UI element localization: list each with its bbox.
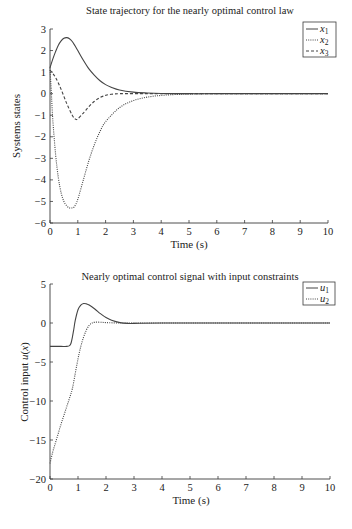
x-tick-label: 6 (214, 226, 219, 237)
y-tick-label: −20 (30, 474, 46, 485)
y-tick-label: −1 (35, 110, 46, 121)
axes: 0123456789103210−1−2−3−4−5−6 (35, 24, 333, 238)
y-tick-label: −4 (35, 174, 47, 185)
y-axis-label: Systems states (10, 94, 22, 158)
series-x2 (50, 68, 328, 208)
x-tick-label: 2 (103, 482, 108, 493)
series-x1 (50, 38, 328, 94)
y-axis-label: Control input u(x) (18, 342, 31, 422)
plot-lines (50, 38, 328, 208)
x-tick-label: 7 (243, 482, 248, 493)
x-tick-label: 4 (159, 226, 165, 237)
x-tick-label: 5 (187, 482, 192, 493)
x-tick-label: 0 (47, 482, 52, 493)
x-tick-label: 9 (299, 482, 304, 493)
legend: x1 x2 x3 (303, 22, 336, 58)
x-tick-label: 3 (131, 226, 136, 237)
y-tick-label: 2 (41, 45, 46, 56)
x-tick-label: 1 (75, 482, 80, 493)
y-tick-label: −5 (35, 196, 46, 207)
y-tick-label: −2 (35, 131, 46, 142)
x-tick-label: 6 (215, 482, 220, 493)
control-signal-chart: Nearly optimal control signal with input… (18, 271, 335, 507)
plot-lines (50, 303, 330, 463)
x-tick-label: 8 (271, 482, 276, 493)
x-tick-label: 2 (103, 226, 108, 237)
x-axis-label: Time (s) (170, 238, 208, 251)
y-tick-label: 0 (41, 318, 46, 329)
series-u1 (50, 303, 330, 346)
chart-title: Nearly optimal control signal with input… (82, 271, 299, 282)
x-tick-label: 1 (75, 226, 80, 237)
axes: 01234567891050−5−10−15−20 (30, 279, 336, 494)
y-tick-label: 3 (41, 24, 46, 35)
y-tick-label: 5 (41, 279, 46, 290)
y-tick-label: 1 (41, 67, 46, 78)
y-tick-label: 0 (41, 88, 46, 99)
x-tick-label: 10 (323, 226, 334, 237)
x-tick-label: 9 (298, 226, 303, 237)
x-tick-label: 0 (47, 226, 52, 237)
legend: u1 u2 (303, 282, 335, 306)
x-tick-label: 5 (186, 226, 191, 237)
series-x3 (50, 70, 328, 120)
x-tick-label: 7 (242, 226, 247, 237)
state-trajectory-chart: State trajectory for the nearly optimal … (10, 5, 336, 251)
y-tick-label: −3 (35, 153, 46, 164)
x-axis-label: Time (s) (172, 494, 210, 507)
x-tick-label: 4 (159, 482, 165, 493)
y-tick-label: −10 (30, 396, 46, 407)
chart-title: State trajectory for the nearly optimal … (86, 5, 294, 16)
figure: State trajectory for the nearly optimal … (0, 0, 352, 529)
y-tick-label: −6 (35, 218, 46, 229)
x-tick-label: 3 (131, 482, 136, 493)
series-u2 (50, 322, 330, 463)
y-tick-label: −5 (35, 357, 46, 368)
x-tick-label: 10 (325, 482, 336, 493)
x-tick-label: 8 (270, 226, 275, 237)
y-tick-label: −15 (30, 435, 46, 446)
